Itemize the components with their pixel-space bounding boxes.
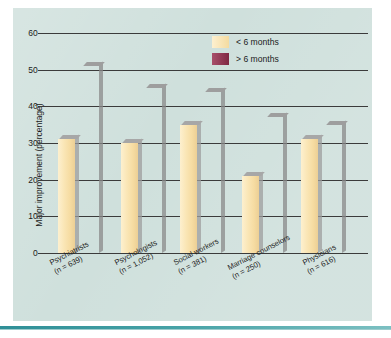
legend-item-1: > 6 months: [212, 52, 322, 66]
bar-face: [266, 117, 283, 253]
bar-face: [325, 125, 342, 253]
y-tick-60: [38, 33, 44, 34]
bar-side: [99, 62, 103, 253]
bar-cap: [243, 172, 265, 176]
legend: < 6 months> 6 months: [212, 35, 322, 69]
bar-face: [82, 66, 99, 253]
bar-1-1: [145, 88, 162, 253]
bar-face: [242, 176, 259, 253]
y-axis-tick-labels: 0102030405060: [16, 33, 38, 253]
bar-side: [318, 135, 322, 253]
y-tick-10: [38, 216, 44, 217]
footer-rule-secondary: [0, 329, 391, 330]
bar-cap: [146, 84, 168, 88]
gridline-60: [44, 33, 368, 34]
y-tick-label-30: 30: [28, 138, 38, 148]
bar-side: [75, 135, 79, 253]
bar-cap: [205, 88, 227, 92]
bar-1-0: [121, 143, 138, 253]
legend-label: > 6 months: [236, 54, 279, 64]
bar-face: [301, 139, 318, 253]
y-tick-label-40: 40: [28, 101, 38, 111]
bar-cap: [122, 139, 144, 143]
bar-side: [259, 172, 263, 253]
y-tick-20: [38, 180, 44, 181]
legend-label: < 6 months: [236, 37, 279, 47]
y-tick-0: [38, 253, 44, 254]
bar-side: [342, 120, 346, 253]
bar-3-1: [266, 117, 283, 253]
bar-face: [121, 143, 138, 253]
bar-2-0: [180, 125, 197, 253]
bar-cap: [181, 121, 203, 125]
bar-4-0: [301, 139, 318, 253]
bar-face: [58, 139, 75, 253]
y-tick-label-20: 20: [28, 175, 38, 185]
bar-side: [162, 84, 166, 253]
y-tick-label-50: 50: [28, 65, 38, 75]
bar-face: [180, 125, 197, 253]
bar-2-1: [204, 92, 221, 253]
bar-side: [221, 87, 225, 253]
bar-4-1: [325, 125, 342, 253]
y-tick-label-10: 10: [28, 211, 38, 221]
legend-swatch-cream: [212, 36, 229, 48]
bar-face: [145, 88, 162, 253]
y-tick-30: [38, 143, 44, 144]
legend-swatch-maroon: [212, 53, 229, 65]
bar-3-0: [242, 176, 259, 253]
bar-0-1: [82, 66, 99, 253]
y-tick-50: [38, 70, 44, 71]
bar-cap: [326, 121, 348, 125]
bar-side: [138, 139, 142, 253]
legend-item-0: < 6 months: [212, 35, 322, 49]
bar-0-0: [58, 139, 75, 253]
chart-screenshot: Major improvement (percentage) 010203040…: [0, 0, 391, 338]
bar-face: [204, 92, 221, 253]
y-tick-40: [38, 106, 44, 107]
bar-cap: [83, 62, 105, 66]
bar-side: [197, 120, 201, 253]
y-tick-label-60: 60: [28, 28, 38, 38]
